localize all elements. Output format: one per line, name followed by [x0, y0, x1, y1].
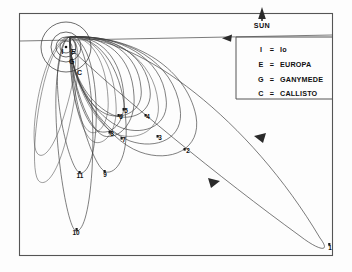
orbit-number-5: 5 — [124, 107, 128, 114]
legend-name-europa: EUROPA — [280, 60, 311, 69]
sun-label: SUN — [254, 21, 270, 30]
orbit-number-7: 7 — [122, 136, 126, 143]
legend-symbol-ganymede: G — [258, 75, 264, 84]
orbit-diagram-svg: I E G C 1 2 3 4 5 6 7 8 9 10 11 — [0, 0, 352, 272]
moon-label-io: I — [62, 48, 64, 55]
sun-indicator: SUN — [254, 7, 270, 30]
trajectory-arrow-outbound — [254, 133, 266, 143]
legend-equals-ganymede: = — [270, 75, 274, 84]
orbit-number-1: 1 — [328, 244, 332, 251]
orbit-number-11: 11 — [77, 172, 84, 179]
legend-equals-callisto: = — [270, 89, 274, 98]
orbit-path-extra-e — [34, 37, 76, 156]
legend-equals-io: = — [270, 45, 274, 54]
moon-label-ganymede: G — [69, 58, 75, 65]
legend-entry-callisto: C = CALLISTO — [258, 89, 317, 98]
orbit-path-9 — [70, 37, 126, 172]
orbit-number-3: 3 — [158, 134, 162, 141]
legend-panel: I = Io E = EUROPA G = GANYMEDE C = CALLI… — [236, 37, 333, 99]
legend-name-ganymede: GANYMEDE — [280, 75, 323, 84]
orbit-number-4: 4 — [146, 113, 150, 120]
legend-entry-io: I = Io — [260, 45, 287, 54]
legend-symbol-europa: E — [259, 60, 264, 69]
orbit-number-10: 10 — [72, 229, 80, 236]
legend-name-io: Io — [280, 45, 287, 54]
left-arrow-icon — [222, 35, 232, 42]
orbit-number-6: 6 — [119, 113, 123, 120]
orbit-path-7 — [70, 37, 134, 137]
orbit-number-2: 2 — [186, 147, 190, 154]
legend-entry-europa: E = EUROPA — [259, 60, 312, 69]
jupiter-center-dot — [65, 46, 68, 49]
orbit-path-10 — [56, 37, 93, 231]
orbit-diagram-figure: I E G C 1 2 3 4 5 6 7 8 9 10 11 — [0, 0, 352, 272]
orbit-number-9: 9 — [103, 171, 107, 178]
moon-label-europa: E — [71, 48, 76, 55]
legend-symbol-callisto: C — [258, 89, 263, 98]
trajectory-arrow-inbound — [208, 178, 220, 188]
orbit-number-8: 8 — [110, 130, 114, 137]
moon-label-callisto: C — [77, 69, 82, 76]
legend-name-callisto: CALLISTO — [280, 89, 318, 98]
legend-symbol-io: I — [260, 45, 262, 54]
legend-equals-europa: = — [270, 60, 274, 69]
legend-entry-ganymede: G = GANYMEDE — [258, 75, 323, 84]
orbit-number-labels: 1 2 3 4 5 6 7 8 9 10 11 — [72, 107, 332, 251]
